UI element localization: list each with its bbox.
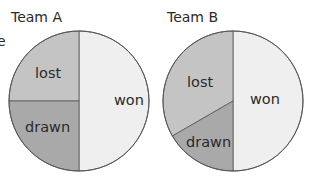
pie-charts: won lost drawn won lost drawn — [0, 0, 309, 180]
label-lost: lost — [187, 74, 213, 90]
slice-drawn — [9, 101, 79, 171]
label-drawn: drawn — [25, 119, 70, 135]
label-won: won — [114, 92, 144, 108]
label-won: won — [250, 91, 280, 107]
pie-team-a: won lost drawn — [9, 31, 149, 171]
label-lost: lost — [35, 65, 61, 81]
pie-team-b: won lost drawn — [163, 31, 303, 171]
label-drawn: drawn — [186, 134, 231, 150]
